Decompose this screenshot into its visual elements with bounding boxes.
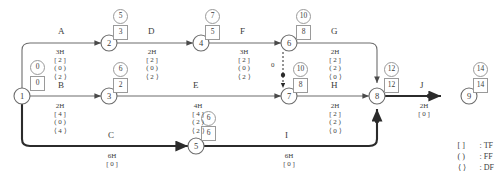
activity-label-C: C (108, 131, 114, 140)
activity-label-A: A (58, 27, 65, 36)
network-diagram: 1 2 3 4 5 6 7 8 (0, 0, 500, 179)
activity-values-C: 6H [ 0 ] (94, 152, 130, 168)
svg-text:7: 7 (287, 91, 291, 101)
legend-meaning-ff: FF (484, 152, 493, 161)
legend-meaning-tf: TF (484, 141, 493, 150)
activity-label-B: B (58, 81, 64, 90)
activity-values-A: 3H [ 2 ] ( 0 ) ⟨ 2 ⟩ (42, 48, 78, 81)
activity-E-df: ⟨ 2 ⟩ (180, 127, 216, 135)
node-6[interactable]: 6 (281, 35, 297, 51)
activity-D-duration: 2H (134, 48, 170, 56)
node-2-earliest-badge: 5 (113, 9, 128, 24)
activity-A-ff: ( 0 ) (42, 64, 78, 72)
activity-label-J: J (420, 81, 424, 90)
activity-label-I: I (285, 131, 288, 140)
activity-values-F: 3H [ 2 ] ( 0 ) ⟨ 2 ⟩ (226, 48, 262, 81)
svg-text:8: 8 (375, 91, 379, 101)
node-3-earliest-badge: 6 (113, 62, 128, 77)
legend-colon-tf: : (480, 141, 482, 150)
activity-H-df: ⟨ 0 ⟩ (317, 127, 353, 135)
node-6-earliest-badge: 10 (296, 9, 311, 24)
legend-row-tf: [ ]: TF (458, 140, 494, 151)
activity-B-ff: ( 0 ) (42, 118, 78, 126)
activity-E-duration: 4H (180, 102, 216, 110)
node-4-latest-badge: 5 (205, 25, 220, 40)
critical-path-dot-J (427, 94, 432, 99)
activity-H-ff: ( 2 ) (317, 118, 353, 126)
activity-B-tf: [ 4 ] (42, 110, 78, 118)
node-6-latest-badge: 8 (296, 25, 311, 40)
activity-B-duration: 2H (42, 102, 78, 110)
activity-J-tf: [ 0 ] (406, 110, 442, 118)
activity-H-duration: 2H (317, 102, 353, 110)
node-3-latest-badge: 2 (113, 78, 128, 93)
activity-F-df: ⟨ 2 ⟩ (226, 73, 262, 81)
svg-text:9: 9 (467, 91, 471, 101)
legend-meaning-df: DF (484, 163, 494, 172)
activity-F-tf: [ 2 ] (226, 56, 262, 64)
svg-text:6: 6 (287, 38, 291, 48)
node-4-earliest-badge: 7 (205, 9, 220, 24)
legend-symbol-tf: [ ] (458, 140, 480, 151)
svg-text:5: 5 (194, 141, 198, 151)
activity-values-H: 2H [ 2 ] ( 2 ) ⟨ 0 ⟩ (317, 102, 353, 135)
activity-label-H: H (331, 81, 338, 90)
activity-values-B: 2H [ 4 ] ( 0 ) ⟨ 4 ⟩ (42, 102, 78, 135)
node-9-latest-badge: 14 (473, 78, 488, 93)
activity-J-duration: 2H (406, 102, 442, 110)
activity-E-tf: [ 4 ] (180, 110, 216, 118)
critical-path-dot-I (375, 119, 380, 124)
activity-C-tf: [ 0 ] (94, 160, 130, 168)
node-8-latest-badge: 12 (384, 78, 399, 93)
activity-C-duration: 6H (94, 152, 130, 160)
activity-D-df: ⟨ 2 ⟩ (134, 73, 170, 81)
node-2-latest-badge: 3 (113, 25, 128, 40)
activity-I-tf: [ 0 ] (271, 160, 307, 168)
activity-values-E: 4H [ 4 ] ( 2 ) ⟨ 2 ⟩ (180, 102, 216, 135)
activity-label-D: D (148, 27, 155, 36)
dummy-node-dot (281, 73, 285, 77)
legend-colon-df: : (480, 163, 482, 172)
activity-G-tf: [ 2 ] (317, 56, 353, 64)
activity-values-I: 6H [ 0 ] (271, 152, 307, 168)
legend-symbol-ff: ( ) (458, 151, 480, 162)
dummy-activity-label: 0 (271, 61, 275, 69)
activity-H-tf: [ 2 ] (317, 110, 353, 118)
activity-G-duration: 2H (317, 48, 353, 56)
legend: [ ]: TF ( ): FF ⟨ ⟩: DF (458, 140, 494, 173)
svg-text:2: 2 (107, 38, 111, 48)
activity-D-tf: [ 2 ] (134, 56, 170, 64)
activity-label-F: F (240, 27, 245, 36)
node-7-latest-badge: 8 (293, 78, 308, 93)
activity-label-E: E (193, 81, 199, 90)
node-7-earliest-badge: 10 (293, 62, 308, 77)
legend-colon-ff: : (480, 152, 482, 161)
legend-symbol-df: ⟨ ⟩ (458, 162, 480, 173)
activity-values-J: 2H [ 0 ] (406, 102, 442, 118)
activity-label-G: G (331, 27, 338, 36)
legend-row-df: ⟨ ⟩: DF (458, 162, 494, 173)
activity-values-D: 2H [ 2 ] ( 0 ) ⟨ 2 ⟩ (134, 48, 170, 81)
activity-A-tf: [ 2 ] (42, 56, 78, 64)
node-8[interactable]: 8 (369, 88, 385, 104)
network-graph-canvas: 1 2 3 4 5 6 7 8 (0, 0, 500, 179)
activity-G-ff: ( 2 ) (317, 64, 353, 72)
activity-I-duration: 6H (271, 152, 307, 160)
node-8-earliest-badge: 12 (384, 62, 399, 77)
svg-text:1: 1 (20, 91, 24, 101)
legend-row-ff: ( ): FF (458, 151, 494, 162)
node-9-earliest-badge: 14 (473, 62, 488, 77)
activity-D-ff: ( 0 ) (134, 64, 170, 72)
activity-B-df: ⟨ 4 ⟩ (42, 127, 78, 135)
activity-E-ff: ( 2 ) (180, 118, 216, 126)
svg-text:3: 3 (107, 91, 111, 101)
activity-F-duration: 3H (226, 48, 262, 56)
activity-F-ff: ( 0 ) (226, 64, 262, 72)
activity-A-duration: 3H (42, 48, 78, 56)
activity-values-G: 2H [ 2 ] ( 2 ) ⟨ 0 ⟩ (317, 48, 353, 81)
node-1[interactable]: 1 (14, 88, 30, 104)
